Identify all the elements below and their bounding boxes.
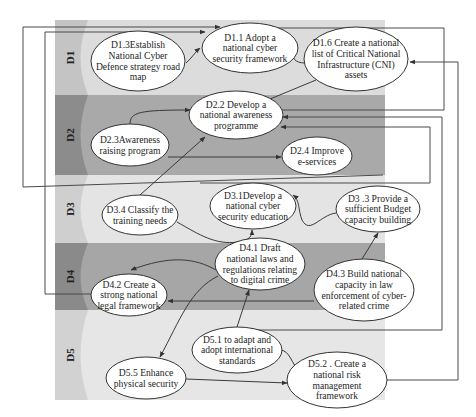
node-label-line: physical security	[114, 378, 179, 389]
node-label-line: list of Critical National	[312, 48, 401, 59]
node-label-line: national cyber	[223, 42, 278, 53]
node-label-line: training needs	[113, 215, 167, 226]
band-label: D1	[64, 51, 76, 64]
node-label-line: capacity building	[345, 214, 412, 225]
band-label: D2	[64, 128, 76, 142]
node-label-line: security framework	[213, 53, 288, 64]
node-label-line: standards	[219, 355, 256, 366]
node-label-line: adopt international	[201, 344, 274, 355]
node-D1-1[interactable]: D1.1 Adopt anational cybersecurity frame…	[202, 23, 298, 73]
node-label-line: management	[312, 380, 361, 391]
node-label-line: D2.3Awareness	[100, 134, 160, 145]
node-label-line: D2.4 Improve	[290, 145, 344, 156]
node-label-line: e-services	[298, 156, 337, 167]
node-D5-2[interactable]: D5.2 . Create anational riskmanagementfr…	[287, 352, 387, 408]
node-label-line: sufficient Budget	[345, 203, 412, 214]
node-D2-3[interactable]: D2.3Awarenessraising program	[91, 124, 169, 166]
node-label-line: D3.1Develop a	[224, 190, 283, 201]
node-label-line: D3 .3 Provide a	[348, 193, 409, 204]
node-label-line: D5.5 Enhance	[119, 367, 173, 378]
node-label-line: D1.6 Create a national	[313, 37, 400, 48]
node-label-line: D5.1 to adapt and	[203, 334, 271, 345]
node-label-line: legal framework	[97, 300, 160, 311]
node-D5-1[interactable]: D5.1 to adapt andadopt internationalstan…	[192, 327, 282, 373]
node-label-line: national risk	[313, 369, 361, 380]
node-D2-4[interactable]: D2.4 Improvee-services	[282, 137, 352, 175]
node-label-line: capacity in law	[335, 279, 393, 290]
node-label-line: D5.2 . Create a	[308, 358, 367, 369]
node-D1-3[interactable]: D1.3EstablishNational CyberDefence strat…	[91, 31, 185, 91]
node-D1-6[interactable]: D1.6 Create a nationallist of Critical N…	[304, 27, 408, 91]
node-label-line: security education	[218, 211, 288, 222]
node-label-line: D1.3Establish	[111, 39, 165, 50]
node-label-line: assets	[345, 69, 368, 80]
node-label-line: framework	[316, 390, 358, 401]
node-label-line: D4.1 Draft	[239, 242, 281, 253]
node-D4-1[interactable]: D4.1 Draftnational laws andregulations r…	[215, 238, 305, 290]
node-label-line: national laws and	[226, 253, 293, 264]
node-D4-3[interactable]: D4.3 Build nationalcapacity in lawenforc…	[314, 259, 414, 321]
band-label: D5	[64, 348, 76, 362]
node-label-line: map	[130, 71, 147, 82]
node-label-line: programme	[214, 120, 258, 131]
band-label: D3	[64, 202, 76, 216]
node-label-line: D4.2 Create a	[102, 279, 156, 290]
node-D3-4[interactable]: D3.4 Classify thetraining needs	[102, 195, 178, 235]
node-label-line: raising program	[99, 145, 161, 156]
node-D2-2[interactable]: D2.2 Develop anational awarenessprogramm…	[189, 91, 283, 139]
node-label-line: national cyber	[226, 200, 281, 211]
node-label-line: D1.1 Adopt a	[224, 32, 276, 43]
band-label: D4	[64, 269, 76, 283]
node-label-line: strong national	[100, 289, 158, 300]
node-D3-1[interactable]: D3.1Develop anational cybersecurity educ…	[210, 183, 296, 229]
node-label-line: to digital crime	[231, 274, 290, 285]
node-label-line: D3.4 Classify the	[107, 204, 174, 215]
node-label-line: national awareness	[200, 109, 273, 120]
node-label-line: regulations relating	[223, 264, 298, 275]
node-D3-3[interactable]: D3 .3 Provide asufficient Budgetcapacity…	[336, 186, 420, 232]
node-label-line: National Cyber	[109, 50, 169, 61]
node-label-line: D2.2 Develop a	[206, 99, 267, 110]
strategy-diagram: D1D2D3D4D5 D1.3EstablishNational CyberDe…	[0, 0, 476, 417]
node-label-line: Defence strategy road	[96, 61, 180, 72]
node-D4-2[interactable]: D4.2 Create astrong nationallegal framew…	[91, 274, 167, 316]
node-label-line: D4.3 Build national	[326, 268, 402, 279]
node-label-line: related crime	[339, 300, 389, 311]
node-D5-5[interactable]: D5.5 Enhancephysical security	[106, 357, 186, 399]
node-label-line: enforcement of cyber-	[321, 290, 406, 301]
